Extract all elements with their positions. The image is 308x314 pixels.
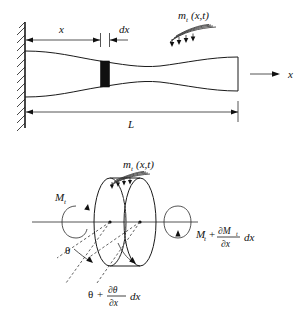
- shaft-body-outline: [25, 51, 238, 97]
- label-mt-args-top: (x,t): [191, 9, 209, 22]
- label-distributed-torque-bottom: m t (x,t): [123, 158, 154, 173]
- label-theta-left: θ: [65, 244, 70, 256]
- label-distributed-torque-top: m t (x,t): [178, 9, 209, 24]
- label-axis-x: x: [287, 68, 293, 80]
- label-theta-base-right: θ: [88, 288, 93, 300]
- top-diagram: x dx L x m t (x,t): [17, 9, 293, 131]
- label-partial-Mt-numerator: ∂M: [218, 226, 232, 236]
- label-mt-subscript-bottom: t: [131, 165, 134, 173]
- dimension-dx: [110, 33, 129, 47]
- label-mt-subscript-top: t: [186, 16, 189, 24]
- dimension-x: [26, 33, 101, 47]
- label-theta-right-expression: θ + ∂θ ∂x dx: [88, 285, 141, 308]
- label-moment-left: M t: [54, 191, 67, 206]
- label-plus-theta-right: +: [97, 288, 103, 300]
- label-dx-tail-right: dx: [244, 231, 255, 243]
- twist-angle-arc-icon-left: [74, 249, 93, 263]
- circular-moment-arrow-icon-left: [62, 204, 90, 238]
- fixed-wall-hatching-icon: [17, 22, 25, 131]
- label-dx-tail-theta: dx: [130, 290, 141, 302]
- label-mt-symbol-top: m: [178, 9, 186, 21]
- label-mt-args-bottom: (x,t): [136, 158, 154, 171]
- label-partial-Mt-numerator-subscript: t: [236, 230, 238, 237]
- label-station-x: x: [58, 23, 64, 35]
- label-partial-x-denominator-theta: ∂x: [109, 298, 119, 308]
- label-plus-right: +: [209, 228, 215, 240]
- label-moment-right-expression: M t + ∂M t ∂x dx: [195, 226, 255, 249]
- x-axis-arrow: [250, 71, 280, 77]
- label-partial-x-denominator: ∂x: [221, 239, 231, 249]
- label-Mt-base-subscript-right: t: [204, 235, 207, 243]
- label-partial-theta-numerator: ∂θ: [108, 285, 118, 295]
- label-length-L: L: [127, 118, 134, 130]
- figure-canvas: x dx L x m t (x,t): [0, 0, 308, 314]
- torsion-shaft-figure: x dx L x m t (x,t): [0, 0, 308, 314]
- label-element-dx: dx: [119, 23, 130, 35]
- element-slab-dx: [101, 61, 110, 87]
- bottom-diagram: M t m t (x,t) θ M t + ∂M t ∂x dx: [32, 158, 255, 308]
- distributed-torque-arrows-icon-bottom: [110, 172, 150, 190]
- distributed-torque-arrows-icon-top: [170, 25, 216, 48]
- label-Mt-subscript-left: t: [64, 198, 67, 206]
- label-mt-symbol-bottom: m: [123, 158, 131, 170]
